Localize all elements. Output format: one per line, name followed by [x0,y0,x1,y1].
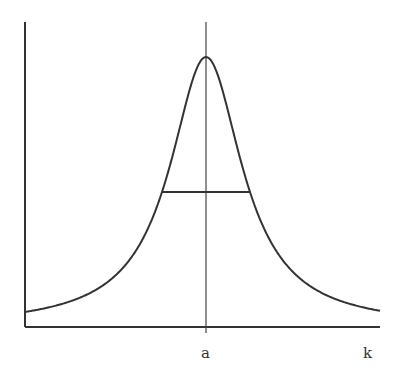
x-axis-label: k [363,344,373,362]
lorentzian-diagram: a k [0,0,399,382]
lorentzian-curve [25,57,380,312]
center-label: a [201,344,210,362]
